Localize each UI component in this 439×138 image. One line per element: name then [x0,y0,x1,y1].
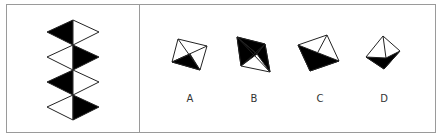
option-c-figure[interactable] [298,35,339,71]
figures-canvas [0,0,439,138]
question-stack [47,20,99,120]
option-a-figure[interactable] [172,39,207,70]
diamond-1 [47,20,99,45]
option-d-figure[interactable] [366,36,400,69]
diamond-2 [47,45,99,70]
option-d-label[interactable]: D [374,93,394,104]
option-a-label[interactable]: A [180,93,200,104]
diamond-4 [47,95,99,120]
option-b-figure[interactable] [237,37,270,72]
diamond-3 [47,70,99,95]
option-c-label[interactable]: C [310,93,330,104]
option-b-label[interactable]: B [244,93,264,104]
